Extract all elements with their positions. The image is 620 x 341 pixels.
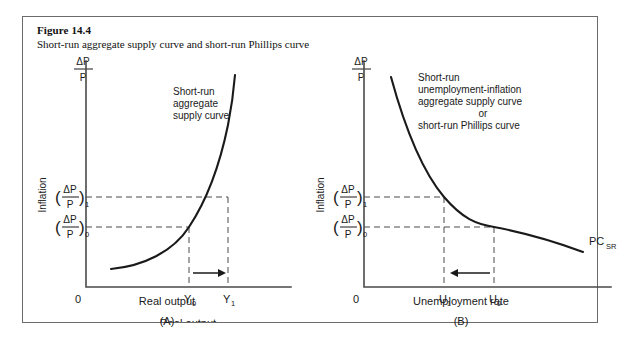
panel-b-annotation-line-1: Short-run: [418, 72, 460, 83]
panel-a-ytick-high-paren-right: ): [79, 188, 85, 207]
panel-a-ytick-low-paren-left: (: [55, 218, 61, 237]
panel-a-y-symbol-numerator: ΔP: [76, 56, 90, 67]
panel-b-ytick-high: ( ΔP P ) 1: [333, 184, 367, 210]
panel-b-annotation: Short-run unemployment-inflation aggrega…: [418, 72, 522, 131]
panel-b-curve-label-text: PC: [589, 235, 604, 247]
panel-a-ytick-low-paren-right: ): [79, 218, 85, 237]
panel-b-ytick-low-paren-right: ): [357, 218, 363, 237]
panel-b-y-symbol-numerator: ΔP: [354, 56, 368, 67]
panel-b-ytick-high-sub: 1: [363, 200, 367, 209]
panel-b-ytick-high-paren-right: ): [357, 188, 363, 207]
panel-b-chart: ΔP P Inflation 0 PC SR: [311, 47, 620, 322]
panel-a-letter: (A): [23, 315, 311, 327]
panel-b-ytick-high-den: P: [345, 199, 352, 210]
panel-a-ytick-low-sub: 0: [85, 230, 89, 239]
panel-b-annotation-line-5: short-run Phillips curve: [418, 120, 520, 131]
panel-b-annotation-line-3: aggregate supply curve: [418, 96, 522, 107]
panel-a-ytick-low: ( ΔP P ) 0: [55, 214, 89, 240]
panel-a-ytick-high: ( ΔP P ) 1: [55, 184, 89, 210]
panel-b-annotation-line-4: or: [479, 108, 489, 119]
panel-b-ytick-low-sub: 0: [363, 230, 367, 239]
panel-b-curve-label: PC SR: [589, 235, 617, 251]
panel-a-y-axis-symbol: ΔP P: [74, 56, 93, 83]
panel-b-y-axis-label: Inflation: [315, 177, 326, 212]
panel-a-ytick-low-den: P: [67, 229, 74, 240]
panel-a-arrow-right: [193, 269, 226, 277]
panel-b-ytick-high-num: ΔP: [341, 184, 355, 195]
panel-b-ytick-low-num: ΔP: [341, 214, 355, 225]
panel-b-annotation-line-2: unemployment-inflation: [418, 84, 521, 95]
panel-b-ytick-low-paren-left: (: [333, 218, 339, 237]
panel-b-x-title: Unemployment rate: [311, 295, 611, 307]
panel-b-letter: (B): [311, 315, 611, 327]
panel-b-y-axis-symbol: ΔP P: [352, 56, 371, 83]
panel-b-ytick-high-paren-left: (: [333, 188, 339, 207]
panel-a-ytick-high-den: P: [67, 199, 74, 210]
panel-b-ytick-low: ( ΔP P ) 0: [333, 214, 367, 240]
panel-a-annotation: Short-run aggregate supply curve: [173, 86, 230, 121]
panel-a-ytick-low-num: ΔP: [63, 214, 77, 225]
panel-a-y-axis-label: Inflation: [37, 177, 48, 212]
panels-container: ΔP P Inflation 0 Y: [23, 47, 597, 322]
panel-b-curve-label-sub: SR: [606, 242, 617, 251]
panel-a-annotation-line-1: Short-run: [173, 86, 215, 97]
panel-a-annotation-line-2: aggregate: [173, 98, 218, 109]
panel-a-ytick-high-sub: 1: [85, 200, 89, 209]
figure-number: Figure 14.4: [37, 24, 309, 38]
panel-b-ytick-low-den: P: [345, 229, 352, 240]
panel-a-chart: ΔP P Inflation 0 Y: [23, 47, 311, 322]
panel-a-ytick-high-paren-left: (: [55, 188, 61, 207]
figure-box: Figure 14.4 Short-run aggregate supply c…: [22, 16, 598, 323]
panel-b-arrow-left: [450, 269, 490, 277]
panel-a-annotation-line-3: supply curve: [173, 110, 230, 121]
panel-a-ytick-high-num: ΔP: [63, 184, 77, 195]
panel-b-footer: Unemployment rate (B): [311, 295, 611, 327]
panel-a-footer: Real output (A): [23, 295, 311, 327]
panel-a-x-title: Real output: [23, 295, 311, 307]
